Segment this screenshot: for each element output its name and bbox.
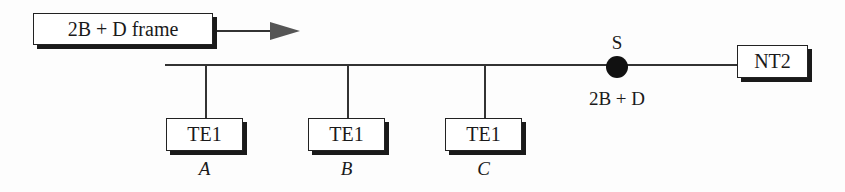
drop-line-b bbox=[347, 64, 349, 119]
frame-box-label: 2B + D frame bbox=[68, 18, 179, 41]
terminal-b-name: B bbox=[308, 158, 385, 180]
drop-line-c bbox=[484, 64, 486, 119]
reference-point-label: S bbox=[597, 32, 637, 54]
bus-line bbox=[165, 64, 738, 66]
arrow-right-icon bbox=[270, 22, 300, 40]
terminal-a: TE1 bbox=[166, 118, 243, 151]
frame-box: 2B + D frame bbox=[33, 13, 213, 45]
reference-point-sublabel: 2B + D bbox=[572, 88, 662, 110]
terminal-c: TE1 bbox=[445, 118, 522, 151]
terminal-b-label: TE1 bbox=[329, 123, 363, 146]
terminal-a-label: TE1 bbox=[187, 123, 221, 146]
reference-point-dot-icon bbox=[606, 56, 628, 78]
isdn-bus-diagram: 2B + D frame TE1 A TE1 B TE1 C S 2B + D … bbox=[0, 0, 845, 192]
arrow-shaft bbox=[217, 30, 275, 32]
terminal-a-name: A bbox=[166, 158, 243, 180]
terminal-b: TE1 bbox=[308, 118, 385, 151]
drop-line-a bbox=[205, 64, 207, 119]
terminal-c-name: C bbox=[445, 158, 522, 180]
nt2-box: NT2 bbox=[737, 45, 808, 78]
nt2-label: NT2 bbox=[754, 50, 791, 73]
terminal-c-label: TE1 bbox=[466, 123, 500, 146]
